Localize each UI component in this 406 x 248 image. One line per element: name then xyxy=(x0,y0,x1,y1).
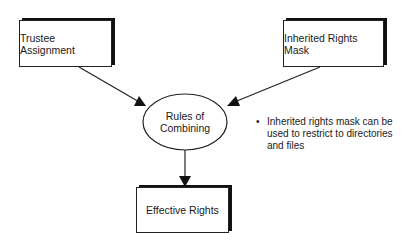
arrowhead-icon xyxy=(134,96,146,106)
edge-trustee-to-rules xyxy=(79,67,141,103)
trustee-assignment-label: Trustee Assignment xyxy=(20,32,111,56)
rules-line-2: Combining xyxy=(143,122,227,134)
note-line-3: and files xyxy=(267,140,393,152)
edge-irm-to-rules xyxy=(232,67,320,103)
trustee-assignment-box: Trustee Assignment xyxy=(19,20,112,67)
note-text: Inherited rights mask can be used to res… xyxy=(267,116,393,152)
effective-rights-label: Effective Rights xyxy=(146,204,219,216)
inherited-rights-mask-box: Inherited Rights Mask xyxy=(283,20,384,67)
rules-of-combining-label: Rules of Combining xyxy=(143,110,227,134)
note-line-2: used to restrict to directories xyxy=(267,128,393,140)
rules-line-1: Rules of xyxy=(143,110,227,122)
effective-rights-box: Effective Rights xyxy=(136,187,229,233)
inherited-rights-mask-label: Inherited Rights Mask xyxy=(284,32,383,56)
arrowhead-icon xyxy=(179,176,191,187)
note-bullet: • xyxy=(256,116,260,128)
note-line-1: Inherited rights mask can be xyxy=(267,116,393,128)
